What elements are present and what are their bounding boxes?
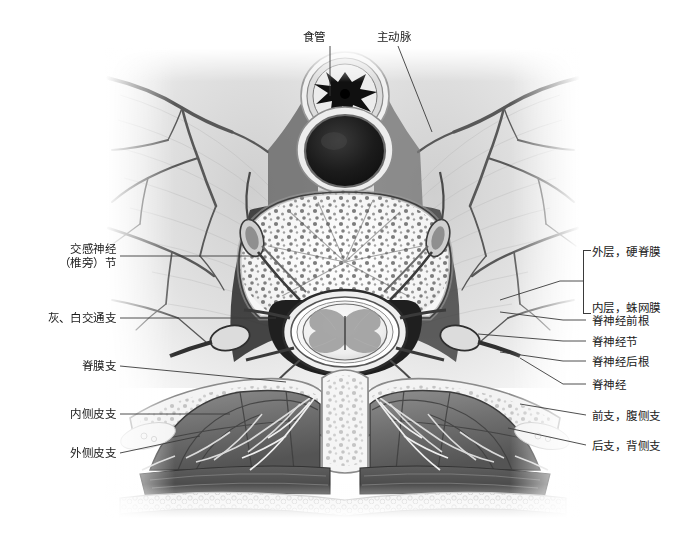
illustration-page: 食管 主动脉 交感神经 （椎旁）节 灰、白交通支 脊膜支 内侧皮支 外侧皮支 外… [0,0,685,553]
label-arachnoid-mater: 内层，蛛网膜 [592,301,660,315]
label-gray-white-rami: 灰、白交通支 [0,311,116,325]
label-spinal-nerve: 脊神经 [592,378,626,392]
spinal-meninges-bracket [583,250,591,314]
label-dorsal-ramus: 后支，背侧支 [592,439,660,453]
aorta-structure [297,107,393,193]
label-medial-cutaneous-branch: 内侧皮支 [0,407,116,421]
label-ventral-ramus: 前支，腹侧支 [592,409,660,423]
label-spinal-ganglion: 脊神经节 [592,335,638,349]
label-lateral-cutaneous-branch: 外侧皮支 [0,446,116,460]
label-meningeal-branch: 脊膜支 [0,359,116,373]
label-esophagus: 食管 [303,30,326,44]
label-aorta: 主动脉 [377,30,411,44]
label-sympathetic-ganglion: 交感神经 （椎旁）节 [0,242,116,270]
label-dura-mater: 外层，硬脊膜 [592,245,660,259]
label-ventral-root: 脊神经前根 [592,314,649,328]
label-dorsal-root: 脊神经后根 [592,355,649,369]
